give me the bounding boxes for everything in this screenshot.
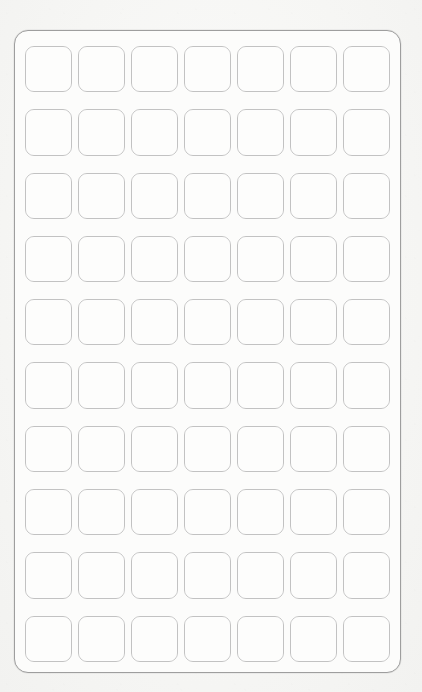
label-cell-text [344,47,389,91]
label-cell-text [291,427,336,471]
label-cell[interactable] [131,46,178,92]
label-cell[interactable] [290,552,337,598]
label-cell-text [79,490,124,534]
label-cell[interactable] [237,299,284,345]
label-cell[interactable] [25,362,72,408]
label-cell-text [132,300,177,344]
label-cell-text [185,490,230,534]
label-cell-text [344,174,389,218]
label-cell[interactable] [131,109,178,155]
label-cell[interactable] [78,489,125,535]
label-cell[interactable] [290,173,337,219]
label-cell[interactable] [343,616,390,662]
label-cell[interactable] [184,46,231,92]
label-cell[interactable] [25,426,72,472]
label-cell-text [185,427,230,471]
label-cell[interactable] [25,489,72,535]
label-cell[interactable] [131,552,178,598]
label-cell[interactable] [290,236,337,282]
label-cell-text [344,110,389,154]
label-cell-text [79,174,124,218]
label-cell[interactable] [237,362,284,408]
label-cell-text [26,110,71,154]
label-cell[interactable] [343,173,390,219]
label-cell[interactable] [131,236,178,282]
label-cell[interactable] [78,362,125,408]
label-cell[interactable] [184,426,231,472]
label-cell-text [291,363,336,407]
label-cell[interactable] [290,46,337,92]
label-cell[interactable] [131,299,178,345]
label-cell[interactable] [184,109,231,155]
label-cell[interactable] [78,173,125,219]
label-cell-text [132,237,177,281]
label-cell[interactable] [131,362,178,408]
label-cell[interactable] [25,616,72,662]
label-cell[interactable] [290,109,337,155]
label-cell[interactable] [78,552,125,598]
label-cell[interactable] [78,46,125,92]
label-cell[interactable] [78,426,125,472]
label-cell-text [185,363,230,407]
label-cell[interactable] [237,616,284,662]
label-cell[interactable] [237,109,284,155]
label-cell[interactable] [131,173,178,219]
label-cell[interactable] [343,552,390,598]
label-cell[interactable] [237,236,284,282]
label-cell[interactable] [25,46,72,92]
label-cell-text [132,427,177,471]
label-cell[interactable] [237,489,284,535]
label-cell[interactable] [290,299,337,345]
label-cell[interactable] [78,616,125,662]
label-cell-text [79,237,124,281]
label-cell-text [291,617,336,661]
label-cell-text [185,47,230,91]
label-cell-text [26,553,71,597]
label-cell[interactable] [343,299,390,345]
label-cell[interactable] [25,552,72,598]
label-cell-text [344,237,389,281]
label-cell[interactable] [184,173,231,219]
label-cell[interactable] [184,616,231,662]
label-cell[interactable] [184,552,231,598]
label-cell-text [79,553,124,597]
sheet-canvas [0,0,422,692]
label-cell[interactable] [237,173,284,219]
label-cell[interactable] [343,236,390,282]
label-cell-text [79,47,124,91]
label-cell-text [238,174,283,218]
label-cell[interactable] [78,109,125,155]
label-cell[interactable] [78,299,125,345]
label-cell[interactable] [131,426,178,472]
label-cell[interactable] [290,362,337,408]
label-cell-text [132,490,177,534]
label-cell[interactable] [131,489,178,535]
label-cell-text [291,300,336,344]
label-cell[interactable] [25,173,72,219]
label-cell[interactable] [237,552,284,598]
label-cell[interactable] [237,426,284,472]
label-cell-text [238,553,283,597]
label-cell[interactable] [184,236,231,282]
label-cell[interactable] [237,46,284,92]
label-cell[interactable] [25,299,72,345]
label-cell[interactable] [290,426,337,472]
label-cell[interactable] [343,46,390,92]
label-cell-text [344,490,389,534]
label-cell[interactable] [131,616,178,662]
label-cell-text [344,363,389,407]
label-cell[interactable] [25,109,72,155]
label-cell[interactable] [25,236,72,282]
label-cell[interactable] [290,489,337,535]
label-cell[interactable] [290,616,337,662]
label-cell[interactable] [343,426,390,472]
label-cell[interactable] [78,236,125,282]
label-cell[interactable] [184,299,231,345]
label-cell[interactable] [184,489,231,535]
label-cell[interactable] [184,362,231,408]
label-cell[interactable] [343,362,390,408]
label-cell-text [185,617,230,661]
label-cell-text [132,617,177,661]
label-cell[interactable] [343,489,390,535]
label-cell[interactable] [343,109,390,155]
